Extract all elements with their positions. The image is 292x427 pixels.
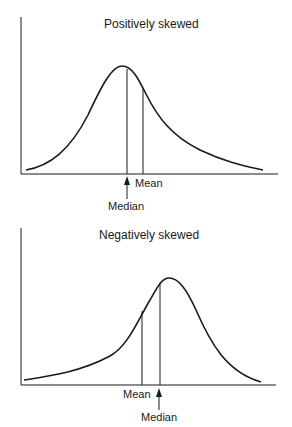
bottom-median-arrow-icon [156,388,162,397]
skew-diagrams [0,0,292,427]
top-curve [26,66,263,170]
positively-skewed-chart [21,17,278,199]
top-mean-label: Mean [135,177,163,189]
negatively-skewed-chart [21,228,276,410]
top-median-label: Median [108,200,144,212]
top-chart-title: Positively skewed [104,17,199,31]
bottom-mean-label: Mean [123,388,151,400]
bottom-median-label: Median [141,411,177,423]
bottom-chart-title: Negatively skewed [99,228,199,242]
top-median-arrow-icon [124,176,130,185]
